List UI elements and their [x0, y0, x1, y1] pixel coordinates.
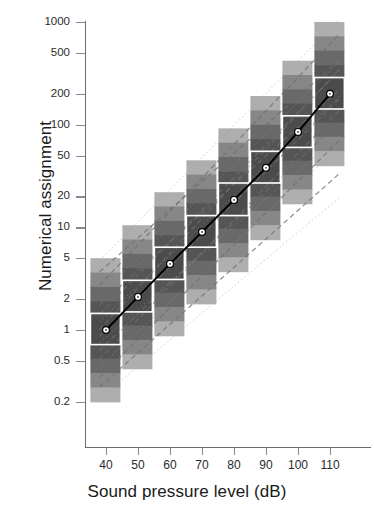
- x-tick-mark: [106, 447, 107, 455]
- y-tick-mark: [76, 402, 85, 403]
- density-band: [186, 261, 216, 276]
- y-tick-label: 1000: [10, 16, 70, 28]
- density-band: [90, 258, 120, 273]
- median-marker-dot: [201, 231, 203, 233]
- density-band: [250, 96, 280, 111]
- density-band: [122, 254, 152, 269]
- x-tick-mark: [234, 447, 235, 455]
- y-tick-mark: [76, 227, 85, 228]
- density-band: [314, 22, 344, 37]
- density-band: [90, 359, 120, 374]
- x-tick-mark: [170, 447, 171, 455]
- y-tick-label: 50: [10, 150, 70, 162]
- density-band: [218, 257, 248, 272]
- x-tick-mark: [266, 447, 267, 455]
- x-tick-mark: [330, 447, 331, 455]
- density-band: [282, 161, 312, 176]
- density-band: [154, 192, 184, 207]
- density-band: [250, 125, 280, 140]
- y-tick-label: 5: [10, 252, 70, 264]
- density-band: [186, 289, 216, 304]
- y-tick-label: 0.5: [10, 355, 70, 367]
- y-tick-mark: [76, 125, 85, 126]
- y-tick-label: 200: [10, 88, 70, 100]
- median-marker-dot: [169, 263, 171, 265]
- y-tick-label: 100: [10, 119, 70, 131]
- median-marker-dot: [105, 329, 107, 331]
- y-tick-label: 10: [10, 221, 70, 233]
- density-band: [218, 157, 248, 172]
- density-band: [282, 61, 312, 76]
- y-tick-label: 2: [10, 293, 70, 305]
- y-tick-mark: [76, 258, 85, 259]
- x-tick-mark: [202, 447, 203, 455]
- density-bands-group: [90, 22, 344, 402]
- y-tick-label: 1: [10, 324, 70, 336]
- chart-figure: Numerical assignment Sound pressure leve…: [0, 0, 374, 517]
- density-band: [122, 326, 152, 341]
- y-tick-mark: [76, 299, 85, 300]
- density-band: [218, 229, 248, 244]
- y-tick-mark: [76, 53, 85, 54]
- median-marker-dot: [233, 199, 235, 201]
- density-band: [90, 287, 120, 302]
- x-axis-line: [85, 447, 371, 448]
- median-marker-dot: [265, 167, 267, 169]
- density-band: [250, 182, 280, 197]
- median-marker-dot: [137, 296, 139, 298]
- density-band: [314, 51, 344, 66]
- x-tick-mark: [138, 447, 139, 455]
- y-tick-label: 500: [10, 47, 70, 59]
- median-marker-dot: [329, 93, 331, 95]
- y-tick-mark: [76, 156, 85, 157]
- y-tick-mark: [76, 361, 85, 362]
- density-band: [154, 307, 184, 322]
- density-band: [186, 175, 216, 190]
- density-band: [250, 225, 280, 240]
- density-band: [218, 128, 248, 143]
- density-band: [90, 373, 120, 388]
- y-tick-label: 0.2: [10, 396, 70, 408]
- density-band: [314, 151, 344, 166]
- y-tick-mark: [76, 196, 85, 197]
- median-marker-dot: [297, 131, 299, 133]
- density-band: [90, 273, 120, 288]
- density-band: [282, 175, 312, 190]
- y-axis-line: [85, 21, 86, 448]
- y-tick-mark: [76, 22, 85, 23]
- y-tick-mark: [76, 94, 85, 95]
- density-band: [314, 108, 344, 123]
- density-band: [154, 293, 184, 308]
- x-tick-mark: [298, 447, 299, 455]
- density-band: [154, 278, 184, 293]
- density-band: [90, 387, 120, 402]
- y-tick-mark: [76, 330, 85, 331]
- density-band: [122, 340, 152, 355]
- x-tick-label: 110: [310, 458, 350, 472]
- y-tick-label: 20: [10, 190, 70, 202]
- density-band: [282, 75, 312, 90]
